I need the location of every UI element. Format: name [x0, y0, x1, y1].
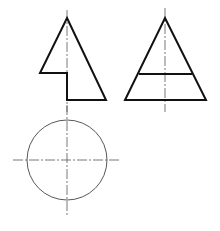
- drawing-canvas: [0, 0, 220, 231]
- side-view: [125, 8, 206, 112]
- front-view: [40, 10, 106, 112]
- top-view: [13, 105, 120, 215]
- side-view-outline: [125, 18, 206, 100]
- front-view-outline: [40, 18, 106, 100]
